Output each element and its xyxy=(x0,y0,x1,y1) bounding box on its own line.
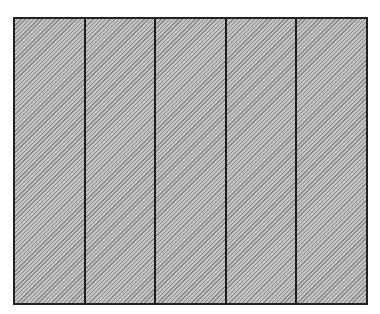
hatched-panel-5 xyxy=(297,19,366,303)
hatched-panel-3 xyxy=(156,19,227,303)
truncated-heading-text xyxy=(4,0,376,5)
hatched-panel-2 xyxy=(86,19,157,303)
panel-grid-frame xyxy=(13,17,368,305)
hatched-panel-4 xyxy=(227,19,298,303)
hatched-panel-1 xyxy=(15,19,86,303)
